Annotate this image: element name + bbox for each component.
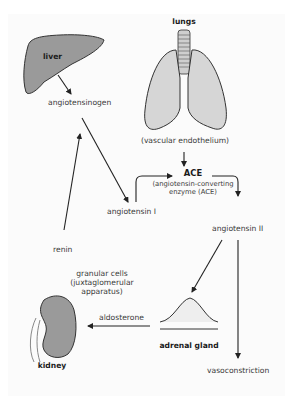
ace-desc-line2: enzyme (ACE) xyxy=(169,189,217,197)
lungs-icon xyxy=(145,30,227,129)
adrenal-gland-label: adrenal gland xyxy=(159,342,218,351)
angiotensin-2-label: angiotensin II xyxy=(212,225,263,234)
aldosterone-label: aldosterone xyxy=(99,314,144,323)
adrenal-gland-icon xyxy=(160,298,218,329)
angiotensin-1-label: angiotensin I xyxy=(107,208,156,217)
liver-label: liver xyxy=(43,53,62,62)
granular-cells-line3: apparatus) xyxy=(81,288,122,297)
lungs-label: lungs xyxy=(172,18,195,27)
kidney-icon xyxy=(30,296,76,362)
vascular-endothelium-label: (vascular endothelium) xyxy=(141,137,229,146)
kidney-label: kidney xyxy=(38,362,67,371)
angiotensinogen-label: angiotensinogen xyxy=(48,99,111,108)
vasoconstriction-label: vasoconstriction xyxy=(207,367,269,376)
renin-label: renin xyxy=(53,246,72,255)
liver-icon xyxy=(24,35,104,94)
ace-label: ACE xyxy=(184,169,202,179)
